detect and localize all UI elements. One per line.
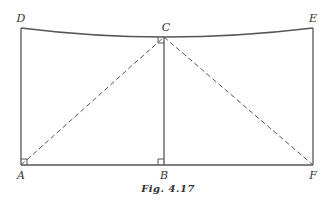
right-angle-mark-B bbox=[158, 159, 164, 165]
label-A: A bbox=[17, 170, 25, 181]
dashed-CF bbox=[164, 37, 313, 165]
label-C: C bbox=[162, 22, 170, 33]
figure-caption: Fig. 4.17 bbox=[141, 184, 195, 194]
dashed-AC bbox=[21, 37, 164, 165]
label-B: B bbox=[160, 170, 168, 181]
label-F: F bbox=[309, 170, 317, 181]
label-D: D bbox=[17, 13, 26, 24]
label-E: E bbox=[309, 13, 317, 24]
